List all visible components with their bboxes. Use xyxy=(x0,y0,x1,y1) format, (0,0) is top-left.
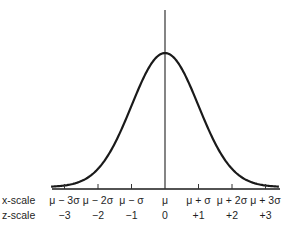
x-scale-tick-label: μ + 3σ xyxy=(250,194,281,206)
z-scale-tick-label: −2 xyxy=(92,209,104,221)
x-scale-row-label: x-scale xyxy=(2,194,35,206)
x-scale-tick-label: μ − 2σ xyxy=(83,194,114,206)
x-scale-tick-label: μ − σ xyxy=(119,194,144,206)
x-scale-tick-label: μ + 2σ xyxy=(217,194,248,206)
z-scale-labels: −3−2−10+1+2+3 xyxy=(59,209,272,221)
x-scale-tick-label: μ − 3σ xyxy=(49,194,80,206)
normal-distribution-diagram: μ − 3σμ − 2σμ − σμμ + σμ + 2σμ + 3σ −3−2… xyxy=(0,0,298,232)
z-scale-row-label: z-scale xyxy=(2,209,35,221)
z-scale-tick-label: −3 xyxy=(59,209,71,221)
z-scale-tick-label: −1 xyxy=(126,209,138,221)
z-scale-tick-label: 0 xyxy=(162,209,168,221)
z-scale-tick-label: +3 xyxy=(260,209,272,221)
x-scale-tick-label: μ xyxy=(162,194,168,206)
z-scale-tick-label: +2 xyxy=(226,209,238,221)
x-scale-labels: μ − 3σμ − 2σμ − σμμ + σμ + 2σμ + 3σ xyxy=(49,194,281,206)
z-scale-tick-label: +1 xyxy=(193,209,205,221)
x-scale-tick-label: μ + σ xyxy=(186,194,211,206)
